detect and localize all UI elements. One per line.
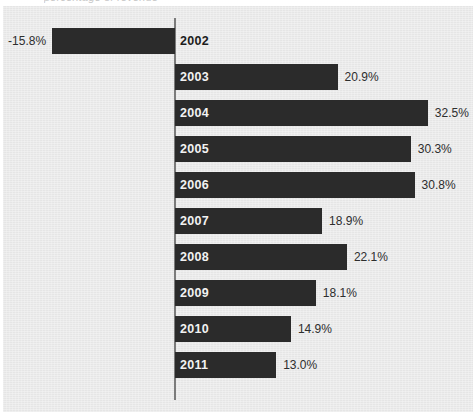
bar-value-label: -15.8% xyxy=(8,28,46,54)
bar-category-label: 2004 xyxy=(180,100,209,126)
bar-row[interactable]: 200432.5% xyxy=(3,100,473,126)
bar-category-label: 2002 xyxy=(180,28,209,54)
bar-chart-figure: percentage of revenue 2002-15.8%200320.9… xyxy=(0,0,476,418)
bar-row[interactable]: 200718.9% xyxy=(3,208,473,234)
bar-row[interactable]: 200530.3% xyxy=(3,136,473,162)
bar-value-label: 30.3% xyxy=(418,136,452,162)
bar-value-label: 20.9% xyxy=(345,64,379,90)
bar[interactable] xyxy=(175,136,411,162)
bar-row[interactable]: 200918.1% xyxy=(3,280,473,306)
clipped-caption-text: percentage of revenue xyxy=(44,0,284,3)
bar-value-label: 13.0% xyxy=(283,352,317,378)
bar-category-label: 2005 xyxy=(180,136,209,162)
bar[interactable] xyxy=(175,172,415,198)
bar-row[interactable]: 200320.9% xyxy=(3,64,473,90)
bar-value-label: 14.9% xyxy=(298,316,332,342)
bar-value-label: 32.5% xyxy=(435,100,469,126)
bar-category-label: 2006 xyxy=(180,172,209,198)
bar-value-label: 30.8% xyxy=(422,172,456,198)
bar-category-label: 2011 xyxy=(180,352,208,378)
bar-row[interactable]: 200822.1% xyxy=(3,244,473,270)
bar[interactable] xyxy=(52,28,175,54)
bar-row[interactable]: 2002-15.8% xyxy=(3,28,473,54)
bar-value-label: 18.1% xyxy=(323,280,357,306)
bar[interactable] xyxy=(175,100,428,126)
bar-row[interactable]: 201113.0% xyxy=(3,352,473,378)
bar-category-label: 2009 xyxy=(180,280,209,306)
bar-category-label: 2007 xyxy=(180,208,209,234)
plot-area: 2002-15.8%200320.9%200432.5%200530.3%200… xyxy=(3,6,473,412)
bar-row[interactable]: 201014.9% xyxy=(3,316,473,342)
bar-category-label: 2008 xyxy=(180,244,209,270)
bar-category-label: 2003 xyxy=(180,64,209,90)
bar-row[interactable]: 200630.8% xyxy=(3,172,473,198)
bar-value-label: 18.9% xyxy=(329,208,363,234)
bar-category-label: 2010 xyxy=(180,316,209,342)
bar-value-label: 22.1% xyxy=(354,244,388,270)
